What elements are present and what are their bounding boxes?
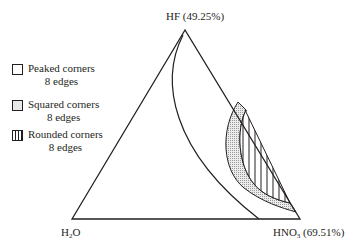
vertex-label-h2o: H2O [61, 226, 80, 238]
legend-text-peaked: Peaked corners 8 edges [28, 62, 95, 88]
vertical-lines-swatch-icon [12, 130, 23, 141]
legend-rounded-line1: Rounded corners [28, 128, 103, 141]
legend-text-rounded: Rounded corners 8 edges [28, 128, 103, 154]
dotted-swatch-icon [12, 100, 23, 111]
legend-rounded-line2: 8 edges [28, 141, 103, 154]
h2o-end: O [72, 226, 80, 238]
h2o-main: H [61, 226, 69, 238]
legend-squared-line1: Squared corners [28, 98, 99, 111]
legend-peaked-line1: Peaked corners [28, 62, 95, 75]
legend-item-squared: Squared corners 8 edges [12, 98, 99, 124]
hno3-end: (69.51%) [300, 226, 344, 238]
hno3-main: HNO [273, 226, 297, 238]
legend-peaked-line2: 8 edges [28, 75, 95, 88]
ternary-diagram: HF (49.25%) H2O HNO3 (69.51%) Peaked cor… [0, 0, 357, 244]
hf-label-text: HF (49.25%) [166, 10, 224, 22]
legend-item-rounded: Rounded corners 8 edges [12, 128, 103, 154]
vertex-label-hf: HF (49.25%) [166, 10, 224, 22]
vertex-label-hno3: HNO3 (69.51%) [273, 226, 344, 238]
legend-item-peaked: Peaked corners 8 edges [12, 62, 95, 88]
legend-text-squared: Squared corners 8 edges [28, 98, 99, 124]
legend-squared-line2: 8 edges [28, 111, 99, 124]
empty-swatch-icon [12, 64, 23, 75]
